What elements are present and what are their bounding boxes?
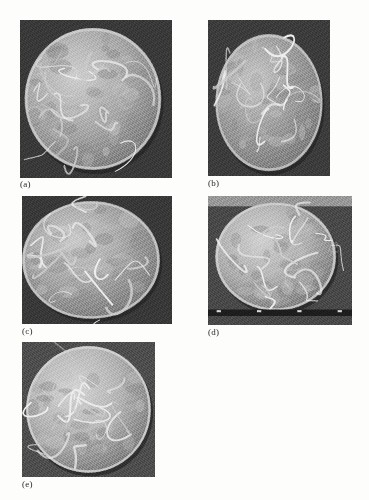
- figure-panel-c: [22, 196, 172, 324]
- panel-caption-d: (d): [208, 327, 219, 337]
- figure-panel-e: [22, 342, 155, 477]
- petri-dish-photo-e: [22, 342, 155, 477]
- figure-panel-d: [208, 196, 352, 325]
- figure-plate: (a)(b)(c)(d)(e): [0, 0, 369, 500]
- halftone-grain-a: [20, 20, 172, 178]
- figure-panel-a: [20, 20, 172, 178]
- panel-caption-e: (e): [22, 479, 33, 489]
- petri-dish-photo-b: [208, 20, 330, 176]
- halftone-grain-e: [22, 342, 155, 477]
- panel-caption-a: (a): [20, 179, 31, 189]
- panel-caption-b: (b): [208, 178, 219, 188]
- halftone-grain-b: [208, 20, 330, 176]
- halftone-grain-c: [22, 196, 172, 324]
- halftone-grain-d: [208, 196, 352, 325]
- petri-dish-photo-c: [22, 196, 172, 324]
- figure-panel-b: [208, 20, 330, 176]
- panel-caption-c: (c): [22, 326, 33, 336]
- petri-dish-photo-d: [208, 196, 352, 325]
- petri-dish-photo-a: [20, 20, 172, 178]
